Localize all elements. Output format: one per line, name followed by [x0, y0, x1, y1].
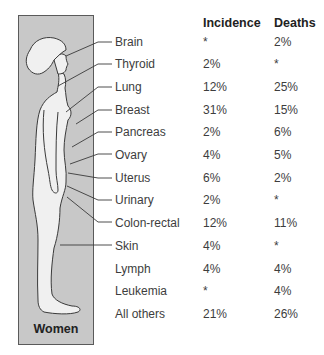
- table-row: Uterus 6% 2%: [0, 171, 324, 187]
- site-label: Brain: [115, 35, 143, 49]
- deaths-value: 15%: [274, 103, 298, 117]
- incidence-value: 4%: [203, 239, 220, 253]
- site-label: Pancreas: [115, 125, 166, 139]
- table-row: Skin 4% *: [0, 239, 324, 255]
- table-row: Breast 31% 15%: [0, 103, 324, 119]
- deaths-value: 11%: [274, 216, 297, 230]
- deaths-value: 6%: [274, 125, 291, 139]
- incidence-value: *: [203, 284, 208, 298]
- incidence-value: 12%: [203, 216, 227, 230]
- incidence-value: 4%: [203, 262, 220, 276]
- deaths-value: 4%: [274, 262, 291, 276]
- deaths-value: *: [274, 239, 279, 253]
- site-label: Urinary: [115, 193, 154, 207]
- table-row: Lymph 4% 4%: [0, 262, 324, 278]
- figure-caption: Women: [18, 322, 94, 336]
- deaths-value: 2%: [274, 35, 291, 49]
- table-row: Brain * 2%: [0, 35, 324, 51]
- incidence-value: 12%: [203, 80, 227, 94]
- table-row: Leukemia * 4%: [0, 284, 324, 300]
- incidence-value: 2%: [203, 57, 220, 71]
- incidence-value: 4%: [203, 148, 220, 162]
- site-label: Lymph: [115, 262, 151, 276]
- site-label: Breast: [115, 103, 150, 117]
- incidence-value: 2%: [203, 193, 220, 207]
- deaths-value: 5%: [274, 148, 291, 162]
- table-row: Urinary 2% *: [0, 193, 324, 209]
- table-row: Ovary 4% 5%: [0, 148, 324, 164]
- header-deaths: Deaths: [274, 16, 316, 30]
- deaths-value: 2%: [274, 171, 291, 185]
- site-label: Uterus: [115, 171, 150, 185]
- deaths-value: *: [274, 193, 279, 207]
- incidence-value: 2%: [203, 125, 220, 139]
- deaths-value: 4%: [274, 284, 291, 298]
- site-label: Leukemia: [115, 284, 167, 298]
- site-label: Thyroid: [115, 57, 155, 71]
- incidence-value: 21%: [203, 307, 227, 321]
- table-row: Lung 12% 25%: [0, 80, 324, 96]
- deaths-value: *: [274, 57, 279, 71]
- site-label: Lung: [115, 80, 142, 94]
- header-incidence: Incidence: [203, 16, 261, 30]
- incidence-value: 6%: [203, 171, 220, 185]
- table-row: Thyroid 2% *: [0, 57, 324, 73]
- incidence-value: 31%: [203, 103, 227, 117]
- site-label: All others: [115, 307, 165, 321]
- incidence-value: *: [203, 35, 208, 49]
- site-label: Ovary: [115, 148, 147, 162]
- table-row: Colon-rectal 12% 11%: [0, 216, 324, 232]
- site-label: Colon-rectal: [115, 216, 180, 230]
- table-row: All others 21% 26%: [0, 307, 324, 323]
- site-label: Skin: [115, 239, 138, 253]
- table-row: Pancreas 2% 6%: [0, 125, 324, 141]
- deaths-value: 25%: [274, 80, 298, 94]
- deaths-value: 26%: [274, 307, 298, 321]
